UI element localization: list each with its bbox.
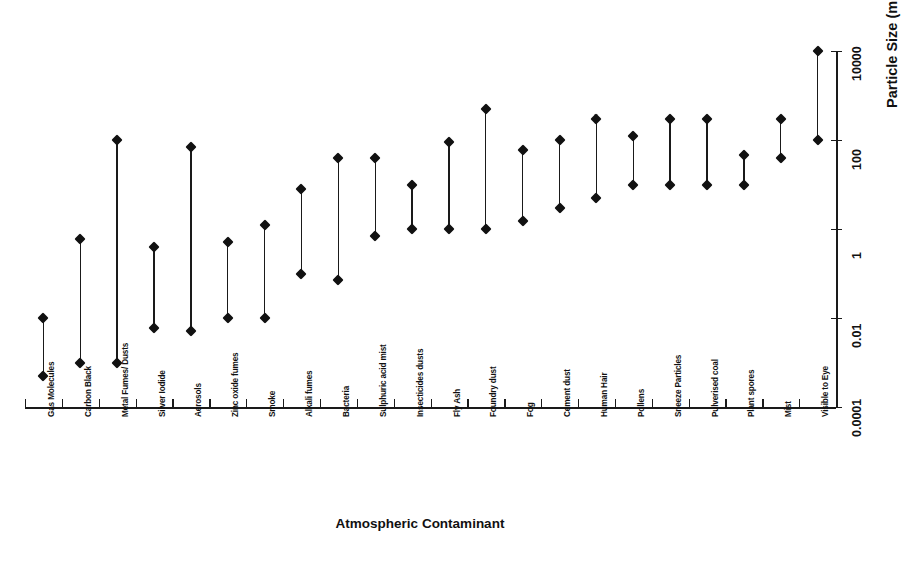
- y-axis-tick: [831, 51, 842, 52]
- x-axis-tick: [799, 399, 800, 408]
- min-marker: [775, 152, 786, 163]
- x-axis-tick: [578, 399, 579, 408]
- x-axis-tick-label: Insecticides dusts: [416, 349, 425, 417]
- max-marker: [75, 233, 86, 244]
- min-marker: [517, 215, 528, 226]
- range-line: [559, 140, 560, 208]
- x-axis-tick-label: Cement dust: [563, 369, 572, 417]
- x-axis-tick: [394, 399, 395, 408]
- max-marker: [111, 134, 122, 145]
- min-marker: [664, 179, 675, 190]
- max-marker: [554, 134, 565, 145]
- max-marker: [370, 152, 381, 163]
- x-axis-tick-label: Gas Molecules: [47, 362, 56, 417]
- max-marker: [222, 237, 233, 248]
- x-axis-tick-label: Sulphuric acid mist: [379, 344, 388, 417]
- x-axis-tick-label: Human Hair: [600, 373, 609, 417]
- y-axis-tick-label: 0.0001: [850, 399, 864, 437]
- max-marker: [185, 141, 196, 152]
- max-marker: [38, 312, 49, 323]
- x-axis-tick-label: Bacteria: [342, 386, 351, 417]
- min-marker: [554, 202, 565, 213]
- x-axis-tick-label: Mist: [784, 401, 793, 417]
- x-axis-tick-label: Foundry dust: [489, 366, 498, 417]
- max-marker: [701, 113, 712, 124]
- y-axis-title: Particle Size (micrometres): [884, 0, 900, 108]
- x-axis-tick-label: Smoke: [268, 391, 277, 417]
- x-axis-tick-label: Zinc oxide fumes: [231, 353, 240, 417]
- x-axis-tick: [25, 399, 26, 408]
- range-line: [448, 142, 449, 229]
- x-axis-tick: [541, 399, 542, 408]
- max-marker: [775, 113, 786, 124]
- range-line: [375, 158, 376, 236]
- min-marker: [480, 223, 491, 234]
- particle-size-chart: Atmospheric Contaminant Particle Size (m…: [0, 0, 918, 565]
- max-marker: [443, 136, 454, 147]
- x-axis-tick: [283, 399, 284, 408]
- range-line: [116, 140, 117, 363]
- x-axis-tick: [615, 399, 616, 408]
- x-axis-tick: [725, 399, 726, 408]
- max-marker: [591, 113, 602, 124]
- x-axis-tick-label: Carbon Black: [84, 366, 93, 417]
- range-line: [264, 225, 265, 318]
- x-axis-tick-label: Pulverised coal: [711, 359, 720, 417]
- min-marker: [222, 312, 233, 323]
- y-axis-tick-label: 0.01: [850, 324, 864, 348]
- min-marker: [738, 179, 749, 190]
- max-marker: [148, 241, 159, 252]
- y-axis-tick-label: 100: [850, 149, 864, 170]
- range-line: [43, 318, 44, 376]
- range-line: [633, 136, 634, 184]
- max-marker: [517, 144, 528, 155]
- y-axis-tick: [831, 318, 842, 319]
- x-axis-tick-label: Silver Iodide: [158, 370, 167, 417]
- min-marker: [185, 326, 196, 337]
- min-marker: [148, 322, 159, 333]
- min-marker: [628, 179, 639, 190]
- y-axis-tick: [831, 229, 842, 230]
- range-line: [669, 119, 670, 185]
- x-axis-tick-label: Plant spores: [747, 370, 756, 417]
- min-marker: [406, 223, 417, 234]
- range-line: [596, 119, 597, 198]
- min-marker: [443, 223, 454, 234]
- max-marker: [480, 103, 491, 114]
- range-line: [227, 242, 228, 318]
- range-line: [153, 247, 154, 328]
- max-marker: [664, 113, 675, 124]
- max-marker: [406, 179, 417, 190]
- range-line: [190, 147, 191, 332]
- x-axis-tick-label: Metal Fumes/ Dusts: [121, 343, 130, 417]
- x-axis-tick-label: Sneeze Particles: [674, 355, 683, 417]
- x-axis-tick: [246, 399, 247, 408]
- max-marker: [296, 183, 307, 194]
- x-axis-tick-label: Fly Ash: [453, 389, 462, 417]
- x-axis-tick: [689, 399, 690, 408]
- x-axis-tick: [431, 399, 432, 408]
- x-axis-tick-label: Visible to Eye: [821, 366, 830, 417]
- x-axis-tick-label: Alkali fumes: [305, 371, 314, 417]
- range-line: [706, 119, 707, 185]
- max-marker: [333, 152, 344, 163]
- x-axis-tick-label: Aerosols: [194, 383, 203, 417]
- x-axis-title: Atmospheric Contaminant: [0, 516, 840, 531]
- range-line: [411, 185, 412, 230]
- range-line: [301, 189, 302, 274]
- range-line: [80, 239, 81, 363]
- x-axis-tick: [357, 399, 358, 408]
- x-axis-tick: [209, 399, 210, 408]
- x-axis-tick: [99, 399, 100, 408]
- min-marker: [296, 268, 307, 279]
- x-axis-tick: [172, 399, 173, 408]
- x-axis-tick: [504, 399, 505, 408]
- min-marker: [259, 312, 270, 323]
- min-marker: [591, 192, 602, 203]
- max-marker: [812, 45, 823, 56]
- max-marker: [259, 220, 270, 231]
- x-axis-tick-label: Fog: [526, 402, 535, 417]
- y-axis-tick: [831, 140, 842, 141]
- plot-area: [0, 0, 918, 565]
- range-line: [485, 109, 486, 229]
